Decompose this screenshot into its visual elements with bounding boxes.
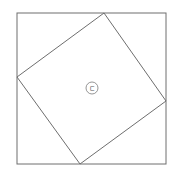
pythagorean-figure: ㄷ [0,0,175,176]
center-label: ㄷ [86,82,98,94]
label-text: ㄷ [89,85,95,93]
